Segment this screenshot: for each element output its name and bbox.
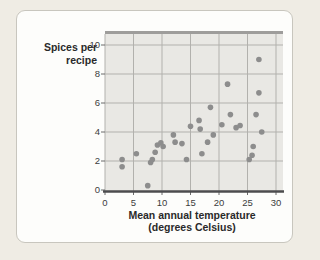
data-point — [134, 151, 140, 157]
y-tick-label: 2 — [70, 155, 100, 167]
y-tick-label: 0 — [70, 184, 100, 196]
x-tick-label: 10 — [151, 197, 173, 209]
data-point — [256, 57, 262, 63]
data-point — [160, 144, 166, 150]
data-point — [208, 105, 214, 111]
data-point — [199, 151, 205, 157]
data-point — [171, 132, 177, 138]
x-axis-title-line1: Mean annual temperature — [106, 209, 278, 221]
plot-background — [105, 31, 283, 191]
plot-top-border — [105, 31, 283, 34]
x-axis-title-line2: (degrees Celsius) — [106, 221, 278, 233]
data-point — [179, 141, 185, 147]
data-point — [228, 112, 234, 118]
y-tick-label: 8 — [70, 68, 100, 80]
x-tick-label: 15 — [180, 197, 202, 209]
data-point — [152, 150, 158, 156]
data-point — [237, 123, 243, 129]
data-point — [256, 90, 262, 96]
data-point — [119, 157, 125, 163]
data-point — [225, 81, 231, 87]
data-point — [197, 126, 203, 132]
data-point — [119, 164, 125, 170]
data-point — [184, 157, 190, 163]
x-tick-label: 5 — [123, 197, 145, 209]
data-point — [188, 123, 194, 129]
x-tick-label: 0 — [94, 197, 116, 209]
y-tick-label: 10 — [70, 39, 100, 51]
y-axis-title-line2: recipe — [20, 54, 97, 67]
data-point — [205, 139, 211, 145]
y-tick-label: 4 — [70, 126, 100, 138]
data-point — [253, 112, 259, 118]
data-point — [211, 132, 217, 138]
data-point — [249, 152, 255, 158]
data-point — [196, 118, 202, 124]
x-tick-label: 25 — [237, 197, 259, 209]
data-point — [259, 129, 265, 135]
data-point — [150, 157, 156, 163]
data-point — [145, 183, 151, 189]
x-tick-label: 20 — [208, 197, 230, 209]
data-point — [250, 144, 256, 150]
data-point — [172, 139, 178, 145]
y-tick-label: 6 — [70, 97, 100, 109]
x-tick-label: 30 — [265, 197, 287, 209]
data-point — [219, 122, 225, 128]
